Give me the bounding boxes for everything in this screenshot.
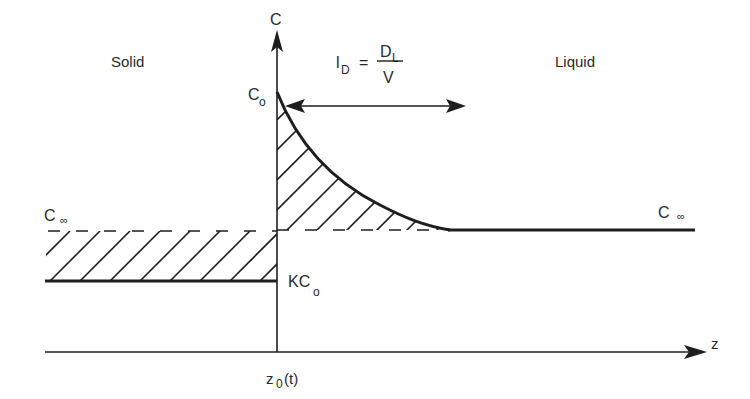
c-axis-label: C xyxy=(270,11,282,28)
svg-text:=: = xyxy=(359,54,368,71)
svg-text:0: 0 xyxy=(276,377,283,391)
svg-text:z: z xyxy=(266,370,274,387)
svg-text:o: o xyxy=(259,95,266,109)
svg-text:(t): (t) xyxy=(284,370,298,387)
c0-label: C o xyxy=(248,86,266,109)
svg-text:l: l xyxy=(336,54,340,71)
liquid-label: Liquid xyxy=(555,53,595,70)
svg-text:KC: KC xyxy=(288,273,310,290)
kc0-label: KC o xyxy=(288,273,320,299)
diagram-canvas: Solid Liquid C z z 0 (t) C o C ∞ C ∞ KC … xyxy=(0,0,750,399)
z-axis-label: z xyxy=(711,335,719,352)
svg-text:∞: ∞ xyxy=(60,214,68,226)
liquid-hatched-region xyxy=(277,87,580,232)
svg-text:V: V xyxy=(383,69,394,86)
solid-label: Solid xyxy=(111,53,144,70)
svg-text:C: C xyxy=(248,86,260,103)
svg-text:∞: ∞ xyxy=(677,210,685,222)
concentration-curve xyxy=(277,92,450,230)
svg-text:C: C xyxy=(44,207,56,224)
diffusion-length-formula: l D = D L V xyxy=(336,43,403,86)
interface-label: z 0 (t) xyxy=(266,370,298,391)
solid-hatched-region xyxy=(20,231,310,281)
svg-text:D: D xyxy=(341,63,350,77)
cinf-left-label: C ∞ xyxy=(44,207,68,226)
svg-text:D: D xyxy=(380,43,392,60)
svg-text:C: C xyxy=(658,204,670,221)
svg-text:o: o xyxy=(313,285,320,299)
svg-text:L: L xyxy=(392,51,399,65)
cinf-right-label: C ∞ xyxy=(658,204,685,222)
